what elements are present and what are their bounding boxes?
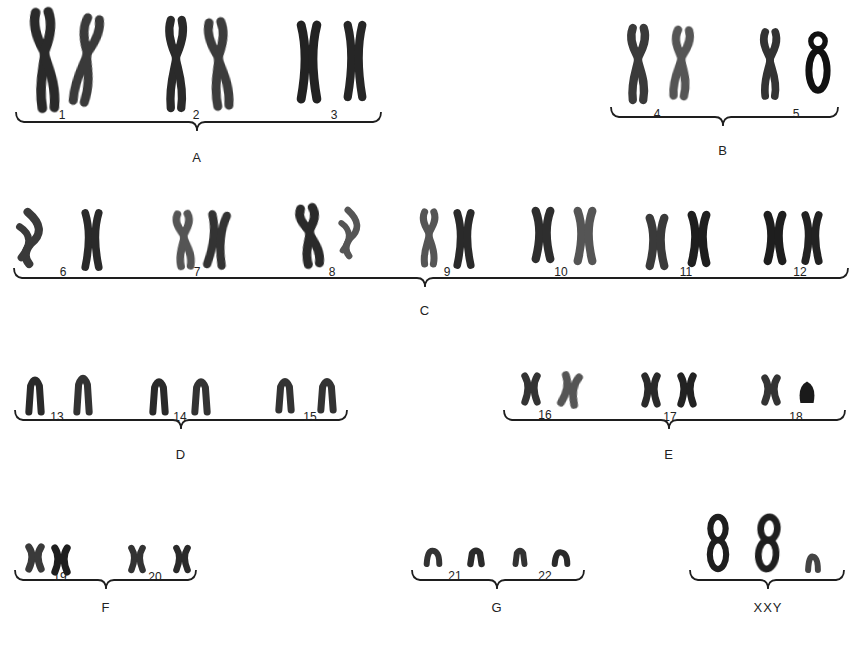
group-brace-g: [410, 570, 586, 596]
chromosome-18b: [796, 379, 818, 405]
chromosome-number-label: 16: [538, 408, 551, 422]
chromosome-13a: [24, 374, 46, 414]
chromosome-2a: [163, 18, 189, 110]
chromosome-16a: [520, 373, 542, 405]
group-brace-b: [609, 107, 840, 133]
chromosome-14b: [190, 376, 212, 414]
group-label: A: [192, 150, 202, 165]
chromosome-12a: [762, 212, 788, 264]
group-brace-f: [13, 570, 198, 596]
chromosome-5a: [758, 30, 782, 98]
group-brace-xxy: [688, 570, 846, 596]
chromosome-21a: [424, 548, 442, 566]
group-label: G: [491, 600, 502, 615]
chromosome-10b: [572, 208, 598, 264]
chromosome-number-label: 13: [50, 410, 63, 424]
chromosome-21b: [466, 548, 486, 566]
chromosome-number-label: 1: [59, 108, 66, 122]
chromosome-20b: [172, 545, 192, 573]
chromosome-22a: [512, 548, 528, 566]
chromosome-number-label: 12: [793, 265, 806, 279]
chromosome-22b: [552, 550, 570, 566]
chromosome-6b: [80, 210, 104, 270]
group-label: XXY: [753, 600, 782, 615]
chromosome-1a: [27, 9, 64, 111]
chromosome-Xb: [753, 513, 783, 573]
chromosome-11b: [686, 212, 712, 266]
chromosome-10a: [530, 208, 556, 262]
chromosome-9b: [452, 210, 476, 268]
chromosome-11a: [644, 215, 670, 269]
chromosome-12b: [800, 212, 824, 264]
chromosome-15a: [274, 376, 296, 412]
chromosome-number-label: 17: [663, 410, 676, 424]
chromosome-7b: [201, 211, 233, 269]
group-label: C: [420, 303, 430, 318]
chromosome-14a: [148, 376, 170, 414]
chromosome-number-label: 22: [538, 569, 551, 583]
chromosome-number-label: 7: [194, 265, 201, 279]
chromosome-number-label: 14: [173, 410, 186, 424]
chromosome-4a: [625, 26, 651, 102]
chromosome-number-label: 5: [793, 107, 800, 121]
chromosome-number-label: 3: [331, 108, 338, 122]
chromosome-3b: [342, 22, 368, 100]
chromosome-3a: [295, 22, 323, 102]
group-label: E: [664, 447, 674, 462]
chromosome-number-label: 9: [444, 265, 451, 279]
group-brace-c: [12, 268, 850, 294]
chromosome-number-label: 11: [680, 265, 692, 279]
chromosome-6a: [18, 210, 50, 266]
chromosome-number-label: 18: [789, 410, 802, 424]
group-label: B: [718, 143, 728, 158]
chromosome-number-label: 15: [303, 410, 316, 424]
chromosome-number-label: 8: [329, 265, 336, 279]
chromosome-19a: [24, 544, 46, 572]
chromosome-17a: [640, 373, 662, 407]
chromosome-8b: [340, 208, 366, 258]
chromosome-18a: [760, 375, 782, 405]
chromosome-4b: [666, 27, 697, 99]
chromosome-number-label: 10: [554, 265, 567, 279]
chromosome-9a: [418, 210, 440, 266]
chromosome-20a: [127, 545, 147, 573]
chromosome-5b: [806, 32, 830, 94]
chromosome-number-label: 2: [193, 108, 200, 122]
chromosome-17b: [676, 373, 698, 407]
chromosome-7a: [170, 211, 198, 269]
chromosome-2b: [200, 19, 237, 109]
chromosome-number-label: 19: [53, 570, 66, 584]
chromosome-number-label: 20: [148, 570, 161, 584]
chromosome-15b: [316, 376, 338, 412]
chromosome-number-label: 21: [448, 569, 461, 583]
chromosome-1b: [65, 14, 108, 106]
chromosome-13b: [72, 372, 94, 414]
chromosome-16b: [555, 371, 585, 409]
group-label: F: [102, 600, 111, 615]
group-label: D: [176, 447, 186, 462]
chromosome-Xa: [706, 514, 730, 572]
chromosome-8a: [292, 204, 328, 267]
chromosome-number-label: 4: [654, 107, 661, 121]
chromosome-number-label: 6: [60, 265, 67, 279]
